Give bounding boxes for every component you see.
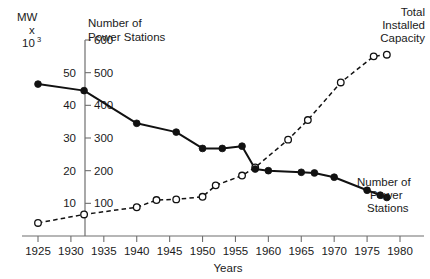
- data-point: [81, 211, 88, 218]
- data-point: [298, 169, 305, 176]
- data-point: [133, 204, 140, 211]
- annotation-top-right-line2: Installed: [382, 19, 425, 31]
- x-tick-label-1980: 1980: [387, 245, 413, 257]
- y-axis-unit-ten: 10: [22, 37, 35, 49]
- annotation-top-left-line2: Power Stations: [88, 31, 166, 43]
- y-tick-label-left-40: 40: [63, 99, 76, 111]
- x-axis-ticks: [38, 236, 400, 242]
- data-point: [252, 166, 259, 173]
- x-tick-label-1930: 1930: [58, 245, 84, 257]
- x-tick-label-1970: 1970: [321, 245, 347, 257]
- data-point: [331, 174, 338, 181]
- x-tick-label-1925: 1925: [25, 245, 51, 257]
- data-point: [265, 167, 272, 174]
- x-axis-title: Years: [214, 262, 243, 274]
- x-tick-label-1940: 1940: [124, 245, 150, 257]
- annotation-bottom-right-line1: Number of: [357, 176, 411, 188]
- y-axis-right-labels: 100200300400500600: [94, 34, 113, 209]
- y-tick-label-right-200: 200: [94, 165, 113, 177]
- data-point: [384, 51, 391, 58]
- data-point: [212, 182, 219, 189]
- annotation-bottom-right-line2: Power: [370, 189, 403, 201]
- y-tick-label-right-300: 300: [94, 132, 113, 144]
- series-total-installed-capacity-line: [38, 55, 387, 223]
- data-point: [311, 170, 318, 177]
- data-point: [35, 220, 42, 227]
- y-tick-label-right-500: 500: [94, 67, 113, 79]
- y-axis-ticks: [85, 40, 91, 203]
- x-tick-label-1935: 1935: [91, 245, 117, 257]
- x-tick-label-1945: 1945: [157, 245, 183, 257]
- y-axis-unit-mw: MW: [17, 11, 38, 23]
- data-point: [370, 53, 377, 60]
- y-tick-label-right-100: 100: [94, 197, 113, 209]
- data-point: [239, 143, 246, 150]
- series-total-installed-capacity-markers: [35, 51, 390, 226]
- x-tick-label-1955: 1955: [223, 245, 249, 257]
- data-point: [153, 197, 160, 204]
- data-point: [173, 129, 180, 136]
- data-point: [133, 120, 140, 127]
- x-tick-label-1960: 1960: [256, 245, 282, 257]
- y-tick-label-left-20: 20: [63, 165, 76, 177]
- x-tick-label-1950: 1950: [190, 245, 216, 257]
- series-number-of-power-stations-markers: [35, 81, 391, 201]
- data-point: [35, 81, 42, 88]
- x-axis-labels: 1925193019351940194519501955196019651970…: [25, 245, 413, 257]
- x-tick-label-1965: 1965: [288, 245, 314, 257]
- annotation-bottom-right-line3: Stations: [367, 202, 409, 214]
- data-point: [199, 145, 206, 152]
- y-tick-label-left-50: 50: [63, 67, 76, 79]
- data-point: [337, 79, 344, 86]
- data-point: [219, 145, 226, 152]
- data-point: [305, 117, 312, 124]
- y-axis-unit-exponent: 3: [37, 35, 41, 44]
- line-chart: 1020304050 100200300400500600 1925193019…: [0, 0, 430, 279]
- annotation-top-right-line1: Total: [401, 6, 425, 18]
- data-point: [285, 136, 292, 143]
- chart-container: 1020304050 100200300400500600 1925193019…: [0, 0, 430, 279]
- y-axis-unit-times: x: [29, 24, 35, 36]
- x-tick-label-1975: 1975: [354, 245, 380, 257]
- y-tick-label-left-30: 30: [63, 132, 76, 144]
- data-point: [173, 196, 180, 203]
- annotation-top-right-line3: Capacity: [380, 32, 425, 44]
- data-point: [199, 194, 206, 201]
- y-tick-label-right-400: 400: [94, 99, 113, 111]
- annotation-top-left-line1: Number of: [88, 17, 142, 29]
- data-point: [239, 172, 246, 179]
- y-tick-label-left-10: 10: [63, 197, 76, 209]
- data-point: [81, 87, 88, 94]
